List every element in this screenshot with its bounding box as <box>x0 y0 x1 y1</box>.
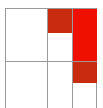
gridline-horizontal-1 <box>6 61 96 62</box>
heatmap-cell-r1c2[interactable] <box>48 9 72 33</box>
gridline-vertical-1 <box>47 9 48 108</box>
plot-area-frame <box>5 8 97 108</box>
heatmap-cell-r2c3[interactable] <box>73 62 97 83</box>
gridline-vertical-2 <box>72 9 73 108</box>
heatmap-cell-r1c3[interactable] <box>73 9 97 61</box>
chart-canvas <box>0 0 103 108</box>
